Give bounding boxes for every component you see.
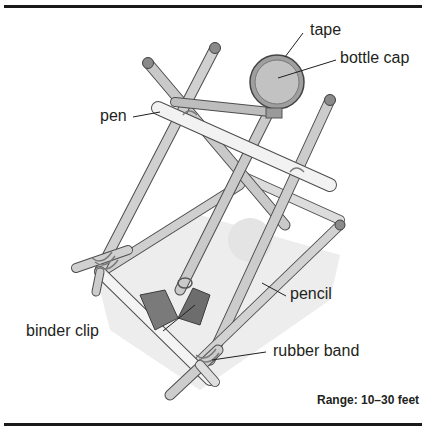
- label-rubber-band: rubber band: [273, 343, 359, 359]
- label-tape: tape: [310, 22, 341, 38]
- label-bottle-cap: bottle cap: [340, 50, 409, 66]
- label-pencil: pencil: [290, 286, 332, 302]
- label-binder-clip: binder clip: [26, 323, 99, 339]
- label-pen: pen: [100, 108, 127, 124]
- bottom-rule: [4, 423, 422, 426]
- range-note: Range: 10–30 feet: [317, 393, 419, 407]
